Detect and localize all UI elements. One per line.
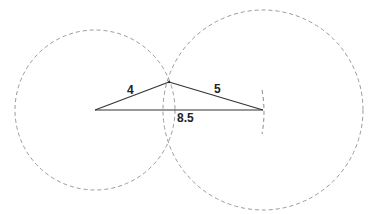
endpoint-arc-mark: [262, 90, 264, 134]
side-5-label: 5: [214, 82, 221, 96]
triangle-construction-diagram: 4 5 8.5: [0, 0, 378, 214]
side-8-5-label: 8.5: [177, 111, 194, 125]
apex-point: [168, 81, 170, 83]
side-4-label: 4: [127, 83, 134, 97]
